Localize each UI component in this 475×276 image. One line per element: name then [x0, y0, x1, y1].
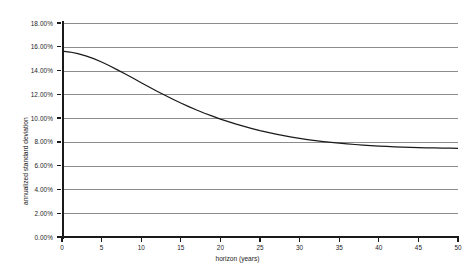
x-axis-title: horizon (years)	[0, 255, 475, 262]
chart-figure: annualized standard deviation horizon (y…	[0, 0, 475, 276]
series-line-annualized-standard-deviation	[62, 23, 458, 237]
y-axis-tick	[57, 94, 61, 95]
y-axis-tick	[57, 22, 61, 23]
y-axis-tick	[57, 141, 61, 142]
y-axis-tick	[57, 46, 61, 47]
x-axis-tick	[378, 238, 379, 242]
x-axis-tick-label: 25	[245, 244, 275, 251]
x-axis-tick	[101, 238, 102, 242]
y-axis-tick-label: 2.00%	[3, 210, 53, 217]
x-axis-tick	[61, 238, 62, 242]
x-axis-tick	[259, 238, 260, 242]
x-axis-tick-label: 0	[47, 244, 77, 251]
x-axis-tick-label: 50	[443, 244, 473, 251]
x-axis-tick	[180, 238, 181, 242]
x-axis-tick-label: 10	[126, 244, 156, 251]
x-axis-tick	[418, 238, 419, 242]
y-axis-tick-label: 6.00%	[3, 162, 53, 169]
x-axis-tick-label: 30	[285, 244, 315, 251]
y-axis-tick	[57, 165, 61, 166]
y-axis-tick-label: 12.00%	[3, 91, 53, 98]
y-axis-tick	[57, 213, 61, 214]
x-axis-tick-label: 20	[205, 244, 235, 251]
y-axis-tick-label: 14.00%	[3, 67, 53, 74]
y-axis-tick-label: 16.00%	[3, 43, 53, 50]
x-axis-tick	[141, 238, 142, 242]
y-axis-tick-label: 0.00%	[3, 234, 53, 241]
y-axis-tick	[57, 189, 61, 190]
x-axis-tick	[457, 238, 458, 242]
y-axis-tick-label: 4.00%	[3, 186, 53, 193]
y-axis-tick-label: 8.00%	[3, 138, 53, 145]
y-axis-tick	[57, 117, 61, 118]
y-axis-tick-label: 10.00%	[3, 115, 53, 122]
x-axis-tick-label: 40	[364, 244, 394, 251]
x-axis-tick-label: 45	[403, 244, 433, 251]
x-axis-tick-label: 35	[324, 244, 354, 251]
y-axis-tick	[57, 70, 61, 71]
x-axis-tick	[299, 238, 300, 242]
x-axis-tick-label: 5	[87, 244, 117, 251]
x-axis-tick	[220, 238, 221, 242]
y-axis-tick-label: 18.00%	[3, 20, 53, 27]
x-axis-tick	[339, 238, 340, 242]
x-axis-tick-label: 15	[166, 244, 196, 251]
